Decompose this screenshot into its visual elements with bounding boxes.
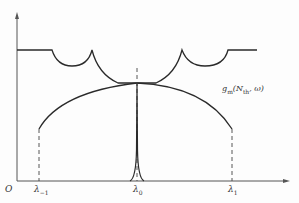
gain-curve-label: gm(Nth, ω)	[222, 85, 264, 95]
gain-curve	[39, 83, 232, 129]
diagram-svg	[0, 0, 299, 203]
diagram-canvas: O λ−1 λ0 λ1 gm(Nth, ω)	[0, 0, 299, 203]
origin-label: O	[5, 185, 12, 194]
tick-lambda-0: λ0	[133, 185, 143, 196]
y-axis-arrow-icon	[15, 12, 19, 19]
tick-lambda-1: λ1	[228, 185, 238, 196]
x-axis-arrow-icon	[283, 179, 290, 183]
tick-lambda-minus1: λ−1	[34, 185, 49, 196]
